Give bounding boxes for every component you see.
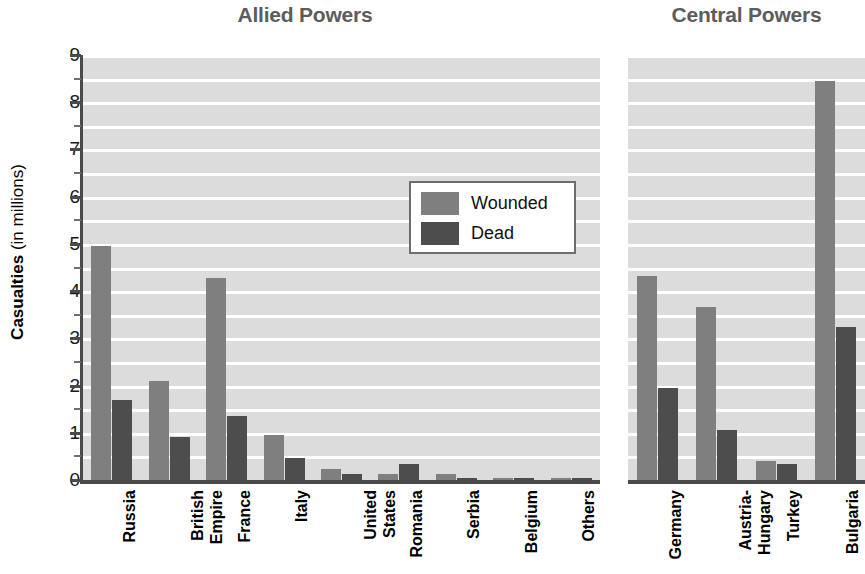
bar-dead [777, 464, 797, 480]
x-tick-label: Russia [121, 490, 139, 574]
bar-dead [836, 327, 856, 480]
y-tick-major [70, 385, 81, 388]
x-tick-label-line: States [380, 490, 399, 574]
bar-dead [170, 437, 190, 480]
x-tick-label-line: Belgium [523, 490, 541, 574]
y-tick-minor [74, 408, 81, 410]
y-tick-minor [74, 219, 81, 221]
y-tick-minor [74, 455, 81, 457]
x-tick-label-line: Serbia [465, 490, 483, 574]
bar-wounded [206, 278, 226, 480]
bar-wounded [264, 435, 284, 480]
bar-dead [658, 388, 678, 480]
chart-title-allied: Allied Powers [180, 3, 430, 27]
x-tick-label: Serbia [465, 490, 483, 574]
y-tick-major [70, 243, 81, 246]
y-tick-major [70, 54, 81, 57]
bar-wounded [378, 474, 398, 480]
bar-dead [457, 478, 477, 480]
bar-wounded [493, 478, 513, 480]
x-tick-label: Italy [293, 490, 311, 574]
y-tick-major [70, 432, 81, 435]
gridline [83, 55, 600, 58]
bar-wounded [756, 461, 776, 480]
x-tick-label: Austria-Hungary [736, 490, 774, 574]
x-tick-label-line: Germany [667, 490, 685, 574]
y-tick-major [70, 196, 81, 199]
gridline [83, 79, 600, 82]
bar-dead [717, 430, 737, 480]
x-tick-label-line: Austria- [736, 490, 755, 574]
y-tick-major [70, 337, 81, 340]
x-tick-label-line: Bulgaria [844, 490, 862, 574]
x-tick-label: Others [580, 490, 598, 574]
bar-dead [227, 416, 247, 480]
bar-dead [342, 474, 362, 480]
y-tick-minor [74, 78, 81, 80]
y-tick-minor [74, 267, 81, 269]
chart-title-central: Central Powers [628, 3, 865, 27]
bar-wounded [436, 474, 456, 480]
gridline [83, 362, 600, 365]
bar-wounded [637, 276, 657, 480]
legend: Wounded Dead [409, 181, 576, 254]
x-tick-label-line: France [236, 490, 254, 574]
x-axis-line-allied [80, 480, 600, 484]
legend-swatch-dead-icon [421, 222, 459, 245]
bar-wounded [321, 469, 341, 480]
x-axis-line-central [628, 480, 865, 484]
x-tick-label: Turkey [785, 490, 803, 574]
y-axis-tick-labels: 9876543210 [34, 0, 80, 574]
gridline [83, 173, 600, 176]
x-tick-label: France [236, 490, 254, 574]
y-axis-title-units: (in millions) [8, 164, 27, 255]
x-tick-label-line: Russia [121, 490, 139, 574]
x-tick-label-line: United [361, 490, 380, 574]
bar-dead [399, 464, 419, 480]
gridline [83, 149, 600, 152]
legend-label-wounded: Wounded [471, 190, 548, 216]
bar-dead [112, 400, 132, 480]
x-tick-label-line: Romania [408, 490, 426, 574]
x-tick-label: Germany [667, 490, 685, 574]
bar-wounded [149, 381, 169, 480]
y-tick-minor [74, 361, 81, 363]
bar-wounded [551, 478, 571, 480]
y-tick-major [70, 148, 81, 151]
x-tick-label: BritishEmpire [188, 490, 226, 574]
gridline [628, 55, 865, 58]
bar-wounded [815, 81, 835, 480]
x-tick-label: UnitedStates [361, 490, 399, 574]
x-tick-label-line: Turkey [785, 490, 803, 574]
x-tick-label-line: Italy [293, 490, 311, 574]
y-tick-major [70, 101, 81, 104]
gridline [83, 268, 600, 271]
y-tick-minor [74, 314, 81, 316]
legend-label-dead: Dead [471, 220, 514, 246]
casualties-figure: Allied Powers Central Powers Casualties … [0, 0, 865, 574]
y-axis-title-bold: Casualties [8, 255, 27, 340]
y-tick-minor [74, 172, 81, 174]
bar-dead [514, 478, 534, 480]
gridline [83, 291, 600, 294]
y-tick-major [70, 290, 81, 293]
x-tick-label: Belgium [523, 490, 541, 574]
gridline [83, 338, 600, 341]
gridline [83, 102, 600, 105]
bar-wounded [696, 307, 716, 480]
x-tick-label-line: Empire [207, 490, 226, 574]
bar-dead [285, 458, 305, 480]
bar-dead [572, 478, 592, 480]
x-tick-label: Romania [408, 490, 426, 574]
y-tick-minor [74, 125, 81, 127]
y-axis-title: Casualties (in millions) [8, 37, 30, 467]
x-tick-label-line: Others [580, 490, 598, 574]
gridline [83, 126, 600, 129]
x-tick-label-line: British [188, 490, 207, 574]
bar-wounded [91, 246, 111, 480]
gridline [83, 315, 600, 318]
x-tick-label: Bulgaria [844, 490, 862, 574]
x-tick-label-line: Hungary [755, 490, 774, 574]
legend-swatch-wounded-icon [421, 192, 459, 215]
